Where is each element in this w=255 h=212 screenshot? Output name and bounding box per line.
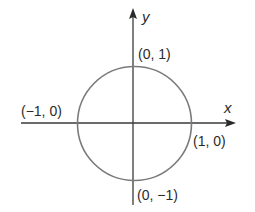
point-label-left: (−1, 0) bbox=[21, 103, 62, 119]
point-label-right: (1, 0) bbox=[193, 133, 226, 149]
unit-circle-diagram: y x (0, 1) (−1, 0) (1, 0) (0, −1) bbox=[0, 0, 255, 212]
point-label-bottom: (0, −1) bbox=[137, 187, 178, 203]
y-axis-label: y bbox=[141, 8, 151, 25]
x-axis bbox=[21, 119, 236, 127]
y-axis bbox=[129, 8, 137, 205]
point-label-top: (0, 1) bbox=[138, 46, 171, 62]
x-axis-label: x bbox=[223, 99, 232, 116]
